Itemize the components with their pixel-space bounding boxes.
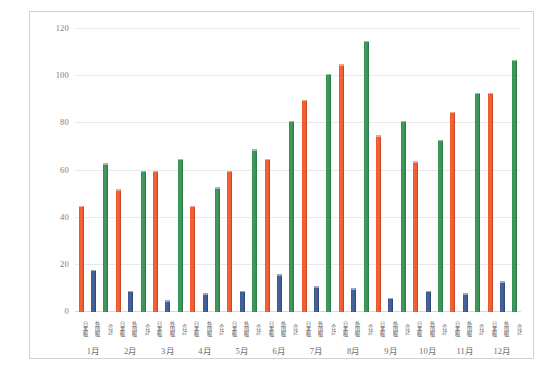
bar[interactable] — [141, 171, 146, 313]
category-axis: 日本糍外国糍合計1月日本糍外国糍合計2月日本糍外国糍合計3月日本糍外国糍合計4月… — [75, 313, 521, 359]
chart-frame: 120100806040200 日本糍外国糍合計1月日本糍外国糍合計2月日本糍外… — [29, 11, 534, 359]
bar[interactable] — [227, 171, 232, 313]
bar[interactable] — [339, 64, 344, 312]
series-axis-label: 合計 — [286, 313, 298, 343]
series-label-row: 日本糍外国糍合計 — [261, 313, 298, 343]
series-axis-label: 外国糍 — [422, 313, 434, 343]
bar-group — [149, 29, 186, 312]
series-axis-label: 外国糍 — [162, 313, 174, 343]
bar-slot — [397, 29, 409, 312]
bar[interactable] — [190, 206, 195, 312]
series-label-row: 日本糍外国糍合計 — [410, 313, 447, 343]
series-axis-label: 合計 — [360, 313, 372, 343]
series-axis-label: 合計 — [137, 313, 149, 343]
bar[interactable] — [426, 291, 431, 312]
series-axis-label: 日本糍 — [298, 313, 310, 343]
bar-slot — [236, 29, 248, 312]
bar-slot — [385, 29, 397, 312]
bar[interactable] — [240, 291, 245, 312]
bar-slot — [422, 29, 434, 312]
bar-slot — [100, 29, 112, 312]
series-axis-label: 外国糍 — [125, 313, 137, 343]
bar[interactable] — [128, 291, 133, 312]
series-axis-label: 外国糍 — [236, 313, 248, 343]
bar-slot — [509, 29, 521, 312]
bar[interactable] — [326, 74, 331, 312]
bar[interactable] — [302, 100, 307, 312]
bar[interactable] — [500, 281, 505, 312]
bar-slot — [323, 29, 335, 312]
y-axis-tick-label: 20 — [60, 259, 69, 269]
series-axis-label: 外国糍 — [385, 313, 397, 343]
bar[interactable] — [277, 274, 282, 312]
category-group: 日本糍外国糍合計4月 — [187, 313, 224, 359]
bar[interactable] — [116, 189, 121, 312]
bar[interactable] — [450, 112, 455, 312]
bar[interactable] — [413, 161, 418, 312]
series-axis-label: 合計 — [248, 313, 260, 343]
bar-slot — [298, 29, 310, 312]
bar-slot — [261, 29, 273, 312]
y-axis-tick-label: 80 — [60, 117, 69, 127]
bar[interactable] — [351, 288, 356, 312]
month-axis-label: 12月 — [484, 343, 521, 356]
series-axis-label: 日本糍 — [335, 313, 347, 343]
bar-slot — [310, 29, 322, 312]
bar[interactable] — [178, 159, 183, 312]
bar[interactable] — [203, 293, 208, 312]
bar-slot — [471, 29, 483, 312]
bar-slot — [360, 29, 372, 312]
bar[interactable] — [364, 41, 369, 312]
bar[interactable] — [153, 171, 158, 313]
bar[interactable] — [103, 163, 108, 312]
y-axis-tick-label: 100 — [56, 70, 69, 80]
bar-group — [187, 29, 224, 312]
series-axis-label: 外国糍 — [310, 313, 322, 343]
bar[interactable] — [165, 300, 170, 312]
series-label-row: 日本糍外国糍合計 — [224, 313, 261, 343]
category-group: 日本糍外国糍合計1月 — [75, 313, 112, 359]
bar-group — [298, 29, 335, 312]
bar[interactable] — [463, 293, 468, 312]
bar[interactable] — [388, 298, 393, 312]
bar[interactable] — [252, 149, 257, 312]
bar[interactable] — [289, 121, 294, 312]
bar-slot — [87, 29, 99, 312]
bar[interactable] — [512, 60, 517, 312]
bar-slot — [273, 29, 285, 312]
series-axis-label: 合計 — [471, 313, 483, 343]
bar[interactable] — [376, 135, 381, 312]
bar-slot — [224, 29, 236, 312]
bar-slot — [447, 29, 459, 312]
bar-group — [261, 29, 298, 312]
series-axis-label: 日本糍 — [149, 313, 161, 343]
bar[interactable] — [265, 159, 270, 312]
bar-slot — [434, 29, 446, 312]
series-axis-label: 日本糍 — [75, 313, 87, 343]
month-axis-label: 4月 — [187, 343, 224, 356]
category-group: 日本糍外国糍合計8月 — [335, 313, 372, 359]
category-group: 日本糍外国糍合計7月 — [298, 313, 335, 359]
series-axis-label: 合計 — [100, 313, 112, 343]
bar[interactable] — [215, 187, 220, 312]
series-axis-label: 外国糍 — [459, 313, 471, 343]
series-label-row: 日本糍外国糍合計 — [187, 313, 224, 343]
month-axis-label: 3月 — [149, 343, 186, 356]
bar[interactable] — [79, 206, 84, 312]
series-axis-label: 日本糍 — [187, 313, 199, 343]
bar[interactable] — [314, 286, 319, 312]
bar-group — [447, 29, 484, 312]
bar[interactable] — [401, 121, 406, 312]
series-label-row: 日本糍外国糍合計 — [75, 313, 112, 343]
month-axis-label: 8月 — [335, 343, 372, 356]
series-axis-label: 合計 — [211, 313, 223, 343]
bar[interactable] — [475, 93, 480, 312]
series-axis-label: 外国糍 — [199, 313, 211, 343]
bar[interactable] — [488, 93, 493, 312]
bar[interactable] — [438, 140, 443, 312]
bar[interactable] — [91, 270, 96, 312]
bar-slot — [187, 29, 199, 312]
category-group: 日本糍外国糍合計6月 — [261, 313, 298, 359]
series-label-row: 日本糍外国糍合計 — [447, 313, 484, 343]
month-axis-label: 5月 — [224, 343, 261, 356]
